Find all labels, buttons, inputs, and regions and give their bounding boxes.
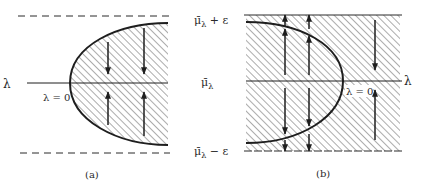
caption-b: (b) bbox=[316, 168, 330, 179]
panel-b bbox=[244, 15, 402, 151]
caption-a: (a) bbox=[85, 169, 99, 180]
lower-bound-label: μ̄λ − ε bbox=[194, 145, 228, 160]
axis-label-a: λ bbox=[3, 77, 11, 91]
upper-bound-label: μ̄λ + ε bbox=[194, 14, 228, 29]
figure: λ λ = 0 (a) μ̄λ + ε μ̄λ μ̄λ − ε λ λ = 0 … bbox=[0, 0, 423, 190]
hatched-band bbox=[246, 15, 400, 151]
middle-label: μ̄λ bbox=[201, 76, 213, 91]
vertex-label-b: λ = 0 bbox=[346, 86, 373, 97]
axis-label-b: λ bbox=[404, 74, 412, 88]
panel-a bbox=[18, 16, 170, 153]
vertex-label-a: λ = 0 bbox=[43, 92, 70, 103]
hatched-region bbox=[70, 23, 168, 145]
